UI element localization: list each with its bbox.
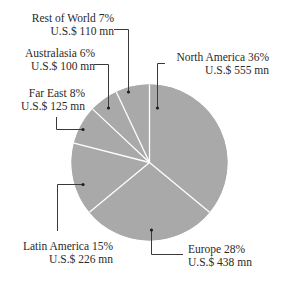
label-europe: Europe 28% U.S.$ 438 mn: [188, 243, 252, 269]
label-far-east: Far East 8% U.S.$ 125 mn: [21, 87, 85, 113]
label-rest-of-world-name: Rest of World 7%: [32, 12, 114, 24]
label-australasia-value: U.S.$ 100 mn: [25, 60, 95, 73]
dot-north-america: [156, 106, 159, 109]
label-north-america: North America 36% U.S.$ 555 mn: [176, 51, 269, 77]
label-latin-america: Latin America 15% U.S.$ 226 mn: [23, 240, 113, 266]
label-europe-value: U.S.$ 438 mn: [188, 256, 252, 269]
label-rest-of-world-value: U.S.$ 110 mn: [32, 25, 114, 38]
label-europe-name: Europe 28%: [188, 243, 245, 255]
leader-rest-of-world: [114, 30, 129, 93]
dot-latin-america: [81, 183, 84, 186]
leader-far-east: [57, 117, 84, 130]
label-north-america-value: U.S.$ 555 mn: [176, 64, 269, 77]
label-australasia: Australasia 6% U.S.$ 100 mn: [25, 47, 95, 73]
pie-slices: [72, 85, 228, 241]
dot-europe: [150, 228, 153, 231]
label-rest-of-world: Rest of World 7% U.S.$ 110 mn: [32, 12, 114, 38]
dot-far-east: [81, 128, 84, 131]
label-far-east-value: U.S.$ 125 mn: [21, 100, 85, 113]
label-latin-america-value: U.S.$ 226 mn: [23, 253, 113, 266]
label-far-east-name: Far East 8%: [29, 87, 85, 99]
dot-rest-of-world: [127, 90, 130, 93]
label-australasia-name: Australasia 6%: [25, 47, 95, 59]
label-north-america-name: North America 36%: [176, 51, 269, 63]
dot-australasia: [107, 106, 110, 109]
label-latin-america-name: Latin America 15%: [23, 240, 113, 252]
